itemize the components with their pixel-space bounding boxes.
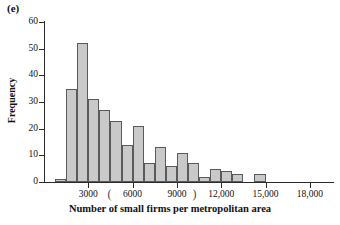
x-tick-9000 (177, 183, 178, 188)
x-tick-12,000 (221, 183, 222, 188)
scan-artifact-glyph: ( (108, 188, 112, 200)
y-tick-label-50: 50 (12, 44, 38, 54)
y-tick-label-10: 10 (12, 150, 38, 160)
histogram-bar (144, 163, 155, 182)
histogram-bar (88, 99, 99, 182)
histogram-bar (133, 126, 144, 182)
histogram-bar (155, 147, 166, 182)
y-tick-label-0: 0 (12, 177, 38, 187)
x-tick-label-6000: 6000 (110, 190, 156, 200)
histogram-bar (122, 145, 133, 182)
panel-label: (e) (7, 2, 19, 14)
histogram-figure: (e) 0102030405060 30006000900012,00015,0… (0, 0, 340, 225)
plot-area (44, 22, 332, 182)
histogram-bar (77, 43, 88, 182)
histogram-bar (221, 171, 232, 182)
x-tick-label-12,000: 12,000 (198, 190, 244, 200)
histogram-bar (232, 174, 243, 182)
x-tick-6000 (133, 183, 134, 188)
x-tick-label-15,000: 15,000 (243, 190, 289, 200)
histogram-bar (66, 89, 77, 182)
x-tick-label-3000: 3000 (65, 190, 111, 200)
histogram-bar (55, 179, 66, 182)
histogram-bar (199, 177, 210, 182)
histogram-bar (110, 121, 121, 182)
histogram-bar (188, 163, 199, 182)
histogram-bar (166, 166, 177, 182)
histogram-bar (210, 169, 221, 182)
y-tick-0 (39, 182, 44, 183)
scan-artifact-glyph: ) (192, 188, 196, 200)
x-tick-18,000 (310, 183, 311, 188)
histogram-bar (254, 174, 265, 182)
x-axis-title: Number of small firms per metropolitan a… (0, 203, 340, 214)
histogram-bar (177, 153, 188, 182)
x-tick-15,000 (266, 183, 267, 188)
x-tick-label-18,000: 18,000 (287, 190, 333, 200)
y-axis-title: Frequency (6, 61, 17, 141)
histogram-bar (99, 110, 110, 182)
x-tick-3000 (88, 183, 89, 188)
y-tick-label-60: 60 (12, 17, 38, 27)
